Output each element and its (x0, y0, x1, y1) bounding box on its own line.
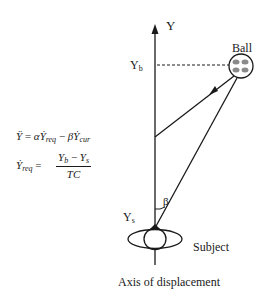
eq2-denominator: TC (56, 167, 91, 180)
yb-label: Yb (130, 59, 143, 73)
trajectory-arrowhead-icon (209, 86, 218, 95)
ys-label: Ys (123, 211, 135, 225)
ball-pattern (233, 60, 240, 65)
subject-shoulders-icon (128, 230, 182, 249)
yb-label-main: Y (130, 58, 139, 72)
y-axis-label: Y (166, 19, 175, 32)
ys-label-subscript: s (132, 216, 135, 225)
beta-angle-arc (155, 207, 165, 209)
yb-label-subscript: b (139, 64, 143, 73)
equation-required-velocity: Ẏreq = Yb − Ys TC (16, 153, 126, 187)
equation-acceleration: Ÿ = αẎreq − βẎcur (16, 130, 90, 144)
eq2-fraction: Yb − Ys TC (56, 151, 91, 180)
ball-pattern (242, 68, 249, 73)
eq1-lhs: Ÿ (16, 130, 22, 142)
eq2-num-ys-sub: s (86, 156, 89, 165)
ys-label-main: Y (123, 210, 132, 224)
ball-pattern (242, 60, 249, 65)
ball-icon (229, 54, 253, 78)
ball-label: Ball (232, 42, 252, 54)
eq2-numerator: Yb − Ys (56, 151, 91, 167)
ball-pattern (233, 68, 240, 73)
eq1-minus: − (59, 130, 65, 142)
eq2-equals: = (35, 159, 41, 171)
eq2-lhs-sub: req (22, 164, 32, 173)
eq1-sub-cur: cur (79, 135, 90, 144)
axis-caption: Axis of displacement (118, 276, 220, 288)
eq1-equals: = (25, 130, 31, 142)
subject-head-icon (144, 229, 166, 250)
beta-angle-label: β (163, 196, 169, 207)
subject-label: Subject (193, 241, 229, 253)
eq1-sub-req: req (46, 135, 56, 144)
y-axis-arrowhead-icon (152, 24, 159, 34)
eq2-num-minus: − (68, 151, 80, 163)
